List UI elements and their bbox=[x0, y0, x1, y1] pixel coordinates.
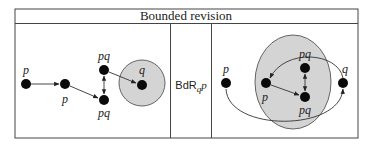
node bbox=[137, 80, 147, 90]
node-label: p bbox=[22, 63, 29, 77]
node-label: pq bbox=[97, 49, 110, 63]
node bbox=[21, 79, 31, 89]
node-label: pq bbox=[298, 103, 311, 117]
node bbox=[99, 95, 109, 105]
edge-arrow bbox=[70, 86, 98, 98]
bounded-revision-figure: Bounded revision p p pq pq q BdRqp bbox=[0, 0, 370, 147]
right-panel: p p pq pq q bbox=[221, 35, 348, 129]
node-label: p bbox=[261, 90, 268, 104]
node-label: pq bbox=[97, 106, 110, 120]
node bbox=[300, 92, 310, 102]
node bbox=[338, 78, 348, 88]
operator-label: BdRqp bbox=[175, 79, 207, 94]
node-label: pq bbox=[298, 47, 311, 61]
node bbox=[261, 78, 271, 88]
left-panel: p p pq pq q bbox=[21, 49, 165, 120]
node-label: q bbox=[139, 63, 145, 77]
node-label: p bbox=[61, 92, 68, 106]
node bbox=[60, 79, 70, 89]
node-label: p bbox=[222, 62, 229, 76]
node bbox=[221, 78, 231, 88]
node-label: q bbox=[342, 62, 348, 76]
figure-title: Bounded revision bbox=[140, 8, 233, 23]
node bbox=[300, 63, 310, 73]
node bbox=[99, 65, 109, 75]
